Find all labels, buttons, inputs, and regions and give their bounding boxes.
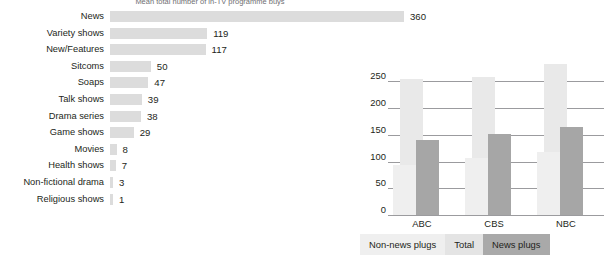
bar-category-label: Soaps [0, 76, 104, 89]
column-nonnews-nbc [537, 152, 560, 215]
bar [110, 160, 116, 171]
bar-value-label: 119 [213, 27, 228, 40]
bar-value-label: 47 [154, 76, 165, 89]
column-chart-plot-area: 050100150200250ABCCBSNBC [388, 60, 604, 215]
bar-value-label: 38 [147, 110, 158, 123]
bar [110, 177, 113, 188]
column-news-abc [416, 140, 439, 215]
grouped-column-chart: 050100150200250ABCCBSNBC [352, 55, 607, 220]
bar-track [110, 177, 113, 188]
bar-row: Variety shows119 [0, 27, 420, 40]
legend-item-non-news-plugs[interactable]: Non-news plugs [360, 234, 445, 255]
bar-track [110, 94, 142, 105]
bar-track [110, 77, 148, 88]
bar-value-label: 3 [119, 176, 124, 189]
bar-value-label: 8 [123, 143, 128, 156]
bar-category-label: Sitcoms [0, 60, 104, 73]
bar [110, 94, 142, 105]
bar-track [110, 28, 207, 39]
bar-track [110, 144, 117, 155]
column-nonnews-abc [393, 165, 416, 215]
bar-category-label: Talk shows [0, 93, 104, 106]
x-axis-line [388, 215, 604, 216]
bar-value-label: 29 [140, 126, 151, 139]
bar-track [110, 11, 404, 22]
bar [110, 28, 207, 39]
column-news-cbs [488, 134, 511, 215]
bar-value-label: 39 [148, 93, 159, 106]
bar [110, 61, 151, 72]
bar [110, 144, 117, 155]
y-axis-tick-label: 50 [352, 177, 386, 188]
bar [110, 44, 206, 55]
bar-category-label: Health shows [0, 159, 104, 172]
bar-track [110, 160, 116, 171]
x-axis-tick-label: NBC [530, 218, 602, 230]
bar-value-label: 50 [157, 60, 168, 73]
bar [110, 111, 141, 122]
bar-track [110, 194, 113, 205]
y-axis-tick-label: 150 [352, 124, 386, 135]
bar-category-label: New/Features [0, 43, 104, 56]
bar-value-label: 7 [122, 159, 127, 172]
bar [110, 127, 134, 138]
legend-item-total[interactable]: Total [445, 234, 483, 255]
bar-category-label: Non-fictional drama [0, 176, 104, 189]
bar-value-label: 1 [119, 193, 124, 206]
bar [110, 194, 113, 205]
x-axis-tick-label: ABC [386, 218, 458, 230]
bar-category-label: Religious shows [0, 193, 104, 206]
bar-category-label: Game shows [0, 126, 104, 139]
bar-value-label: 360 [410, 10, 426, 23]
bar [110, 77, 148, 88]
bar-track [110, 61, 151, 72]
x-axis-tick-label: CBS [458, 218, 530, 230]
bar-track [110, 111, 141, 122]
figure-root: Mean total number of in-TV programme buy… [0, 0, 607, 267]
chart-legend: Non-news plugsTotalNews plugs [360, 234, 550, 255]
bar [110, 11, 404, 22]
bar-category-label: News [0, 10, 104, 23]
y-axis-tick-label: 200 [352, 97, 386, 108]
bar-row: News360 [0, 10, 420, 23]
bar-category-label: Drama series [0, 110, 104, 123]
figure-title: Mean total number of in-TV programme buy… [0, 0, 420, 6]
legend-item-news-plugs[interactable]: News plugs [483, 234, 549, 255]
column-news-nbc [560, 127, 583, 215]
y-axis-tick-label: 0 [352, 204, 386, 215]
bar-track [110, 44, 206, 55]
y-axis-tick-label: 100 [352, 151, 386, 162]
bar-category-label: Variety shows [0, 27, 104, 40]
bar-track [110, 127, 134, 138]
y-axis-tick-label: 250 [352, 70, 386, 81]
bar-value-label: 117 [212, 43, 227, 56]
column-nonnews-cbs [465, 158, 488, 215]
bar-category-label: Movies [0, 143, 104, 156]
